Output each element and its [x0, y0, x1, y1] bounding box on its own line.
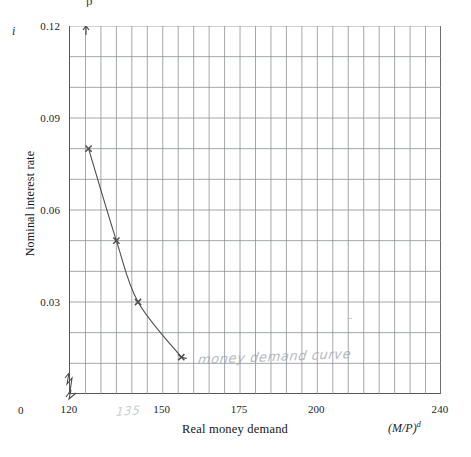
x-axis-symbol: (M/P)d — [388, 420, 421, 436]
x-tick-label: 150 — [142, 404, 182, 415]
axis-top-arrow-marker — [83, 26, 89, 35]
x-tick-label: 200 — [296, 404, 336, 415]
plot-canvas — [70, 26, 441, 394]
demand-curve-line — [89, 149, 187, 359]
handwritten-annotation-x-value: 135 — [116, 403, 141, 419]
x-axis-symbol-superscript: d — [417, 420, 421, 429]
y-axis-symbol: i — [12, 24, 15, 39]
y-axis-title: Nominal interest rate — [23, 104, 38, 304]
x-axis-title: Real money demand — [100, 422, 370, 437]
clipped-top-text: p — [86, 0, 146, 7]
axis-break-marks — [62, 372, 80, 402]
money-demand-chart-figure: p i 0.030.060.090.12 120150175200240 0 N… — [0, 0, 471, 457]
y-tick-label: 0.12 — [16, 21, 60, 32]
x-tick-label: 175 — [219, 404, 259, 415]
x-tick-label: 240 — [420, 404, 460, 415]
x-tick-label: 120 — [49, 404, 89, 415]
data-series-group — [83, 26, 186, 360]
stray-pencil-mark — [347, 318, 352, 319]
x-axis-symbol-base: (M/P) — [388, 421, 417, 435]
plot-area — [69, 26, 440, 394]
x-axis-origin-label: 0 — [18, 404, 24, 416]
